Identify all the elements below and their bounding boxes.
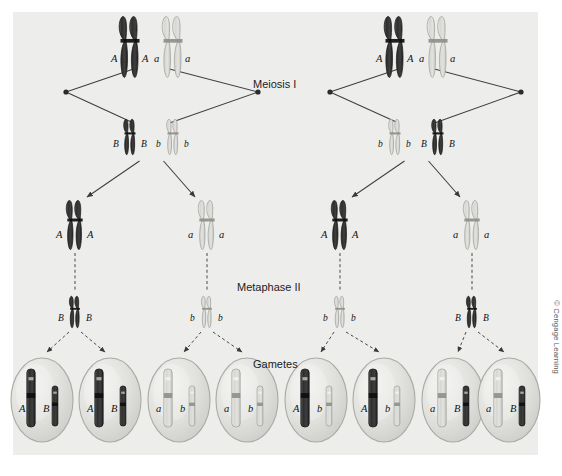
centromere-band [464,219,479,222]
gamete-chromosome-b [394,386,400,426]
allele-label: B [111,403,117,414]
centromere-band [301,393,309,398]
chromosome-band [96,377,101,380]
chromatid [124,119,129,154]
allele-label: A [111,53,117,64]
allele-label: A [56,229,62,240]
chromosome-pair-top [119,17,139,78]
chromosome-band [302,377,307,380]
chromosome-band [520,392,523,394]
centromere-band [121,39,140,43]
gamete-arrow [184,332,201,352]
allele-label: B [58,313,64,323]
chromosome-band [495,377,500,380]
gamete-chromosome-b [120,386,126,426]
gamete-chromosome-a [438,369,446,427]
chromosome-band [395,392,398,394]
meiosis-line [330,92,399,123]
gamete-chromosome-a [164,369,172,427]
chromatid [334,296,338,327]
centromere-band [369,393,377,398]
allele-label: A [352,229,358,240]
allele-label: B [454,403,460,414]
chromosome-band [370,377,375,380]
chromatid [395,119,400,154]
allele-label: A [87,403,93,414]
chromosome-band [28,377,33,380]
chromatid [432,119,437,154]
allele-label: A [376,53,382,64]
gamete-chromosome-a [301,369,309,427]
chromosome-pair-top [384,17,404,78]
metaphase-chromosome-lower [334,296,344,327]
chromatid [69,296,73,327]
gamete-chromosome-b [189,386,195,426]
allele-label: A [321,229,327,240]
gamete-arrow [346,332,379,352]
stage-label-meiosis-i: Meiosis I [253,78,296,90]
allele-label: a [185,53,190,64]
centromere-band [167,132,178,134]
centromere-band [124,132,135,134]
allele-label: a [450,53,455,64]
chromatid [340,200,347,249]
allele-label: B [141,139,147,149]
centromere-band [389,132,400,134]
chromosome-band [121,392,124,394]
chromatid [207,296,211,327]
chromatid [130,17,138,78]
chromatid [119,17,127,78]
chromatid [340,296,344,327]
allele-label: A [142,53,148,64]
allele-label: b [317,403,322,414]
allele-label: B [483,313,489,323]
metaphase-chromosome-upper [331,200,347,249]
division-arrow [164,161,196,197]
centromere-band [494,393,502,398]
chromatid [130,119,135,154]
centromere-band [394,403,400,406]
chromatid [463,200,470,249]
allele-label: a [219,229,224,240]
allele-label: a [224,403,229,414]
chromosome-band [439,377,444,380]
allele-label: B [113,139,119,149]
centromere-band [467,308,477,310]
allele-label: B [43,403,49,414]
gamete-arrow [213,332,242,352]
chromosome-band [464,392,467,394]
chromatid [201,296,205,327]
gamete-chromosome-a [369,369,377,427]
chromatid [75,296,79,327]
spindle-pole [518,89,523,94]
metaphase-chromosome-upper [463,200,479,249]
allele-label: b [248,403,253,414]
chromatid [162,17,170,78]
allele-label: A [293,403,299,414]
gamete-chromosome-b [52,386,58,426]
allele-label: B [421,139,427,149]
allele-label: a [453,229,458,240]
meiosis-independent-assortment-figure: AAaaBBbbAAaabbBBAABBaabbAAbbaaBBABABabab… [0,0,562,476]
chromosome-pair-bottom [124,119,136,154]
gamete-arrow [478,332,504,352]
allele-label: A [361,403,367,414]
diagram-artwork [0,0,562,476]
allele-label: A [407,53,413,64]
gamete-chromosome-a [232,369,240,427]
allele-label: a [154,53,159,64]
gamete-arrow [321,332,334,352]
centromere-band [257,403,263,406]
allele-label: b [385,403,390,414]
allele-label: A [19,403,25,414]
chromatid [438,119,443,154]
centromere-band [335,308,345,310]
meiosis-line [435,69,522,92]
allele-label: b [406,139,411,149]
allele-label: A [87,229,93,240]
chromosome-band [53,392,56,394]
allele-label: a [430,403,435,414]
chromatid [438,17,446,78]
spindle-pole [327,89,332,94]
meiosis-line [170,92,259,123]
